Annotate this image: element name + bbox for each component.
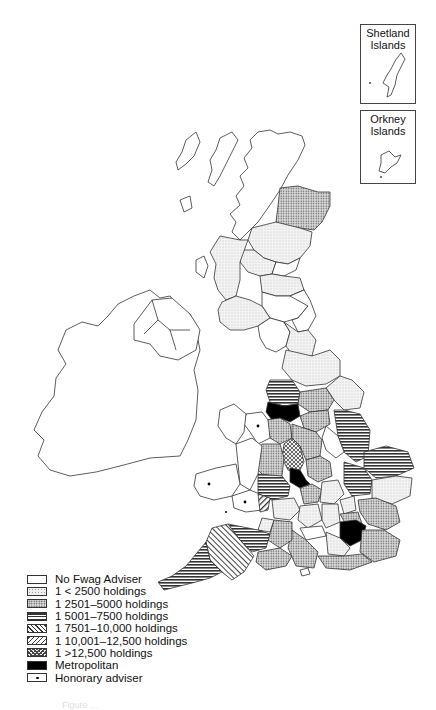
legend-item-7501-10000: 1 7501–10,000 holdings (27, 622, 187, 634)
legend-item-gt-12500: 1 >12,500 holdings (27, 647, 187, 659)
orkney-outline (361, 111, 415, 183)
legend-item-5001-7500: 1 5001–7500 holdings (27, 610, 187, 622)
region-west-yorks (298, 388, 334, 412)
region-gloucestershire (272, 498, 300, 520)
region-cheshire (266, 418, 292, 444)
swatch-dot (27, 673, 47, 682)
swatch-forward-diagonal (27, 636, 47, 645)
swatch-dense-dots (27, 599, 47, 608)
region-sussex (318, 554, 372, 570)
region-dyfed (194, 464, 240, 500)
region-dorset (256, 548, 292, 570)
swatch-light-stipple (27, 587, 47, 596)
legend-item-10001-12500: 1 10,001–12,500 holdings (27, 634, 187, 646)
inset-shetland: Shetland Islands (360, 24, 416, 104)
legend-item-no-adviser: No Fwag Adviser (27, 573, 187, 585)
figure-caption: Figure … (62, 700, 99, 710)
legend-item-lt-2500: 1 < 2500 holdings (27, 585, 187, 597)
legend-item-honorary-adviser: Honorary adviser (27, 671, 187, 683)
region-oxfordshire (298, 504, 322, 528)
legend-item-2501-5000: 1 2501–5000 holdings (27, 598, 187, 610)
swatch-blank (27, 575, 47, 584)
region-bedfordshire (340, 496, 356, 514)
region-berkshire (300, 526, 326, 540)
region-gwynedd (218, 404, 246, 444)
region-grampian (276, 186, 330, 230)
legend-item-metropolitan: Metropolitan (27, 659, 187, 671)
region-leicestershire (306, 456, 332, 482)
map-legend: No Fwag Adviser 1 < 2500 holdings 1 2501… (27, 573, 187, 684)
swatch-solid-black (27, 661, 47, 670)
inset-orkney: Orkney Islands (360, 110, 416, 184)
swatch-horizontal-lines (27, 612, 47, 621)
region-strathclyde (210, 236, 248, 300)
swatch-back-diagonal (27, 624, 47, 633)
region-buckinghamshire (322, 504, 340, 528)
region-norfolk (364, 446, 414, 478)
region-lancashire (266, 380, 300, 406)
shetland-outline (361, 25, 415, 103)
swatch-crosshatch (27, 648, 47, 657)
region-western-isles (176, 132, 200, 170)
region-warwickshire (300, 484, 322, 504)
